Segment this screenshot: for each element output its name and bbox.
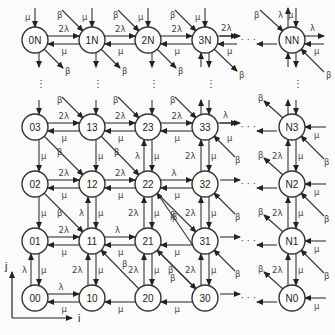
horizontal-ellipsis: · · ·: [241, 292, 257, 303]
node-label: 32: [199, 179, 211, 190]
state-node-22: 22: [135, 171, 161, 197]
mu-label: μ: [314, 187, 320, 197]
node-label: 30: [199, 293, 211, 304]
beta-label: β: [254, 10, 259, 20]
rate-label: 2λ: [128, 265, 138, 275]
node-label: 02: [29, 179, 41, 190]
beta-label: β: [258, 93, 263, 103]
mu-label: μ: [227, 133, 233, 143]
state-node-11: 11: [79, 228, 105, 254]
beta-arrow: [214, 193, 235, 214]
state-node-03: 03: [22, 114, 48, 140]
rate-label: 2λ: [172, 24, 182, 34]
beta-label: β: [122, 259, 127, 269]
vertical-ellipsis: ⋮: [93, 78, 103, 89]
beta-arrow: [214, 250, 235, 271]
beta-label: β: [324, 214, 329, 224]
mu-label: μ: [118, 46, 124, 56]
beta-label: β: [57, 147, 62, 157]
beta-label: β: [324, 157, 329, 167]
state-node-0N: 0N: [22, 27, 48, 53]
rate-label: 2λ: [59, 24, 69, 34]
state-node-13: 13: [79, 114, 105, 140]
rate-label: 2λ: [272, 151, 282, 161]
beta-label: β: [122, 66, 127, 76]
beta-label: β: [324, 271, 329, 281]
mu-label: μ: [25, 12, 31, 22]
rate-label: 2λ: [185, 208, 195, 218]
vertical-ellipsis: ⋮: [293, 78, 303, 89]
rate-label: λ: [172, 168, 177, 178]
mu-label: μ: [288, 10, 294, 20]
beta-arrow: [264, 101, 283, 118]
beta-label: β: [114, 147, 119, 157]
beta-arrow: [301, 193, 324, 216]
mu-label: μ: [211, 208, 217, 218]
rate-label: 2λ: [72, 265, 82, 275]
mu-label: μ: [211, 151, 217, 161]
mu-label: μ: [175, 133, 181, 143]
lambda-label: λ: [278, 10, 283, 20]
rate-label: λ: [22, 265, 27, 275]
node-label: 20: [142, 293, 154, 304]
node-label: 13: [86, 122, 98, 133]
beta-label: β: [172, 212, 177, 222]
rate-label: 2λ: [115, 168, 125, 178]
horizontal-ellipsis: · · ·: [241, 235, 257, 246]
node-label: 21: [142, 236, 154, 247]
state-node-02: 02: [22, 171, 48, 197]
beta-label: β: [57, 10, 62, 20]
node-label: N3: [286, 122, 299, 133]
mu-label: μ: [62, 190, 68, 200]
rate-label: λ: [79, 208, 84, 218]
beta-label: β: [170, 273, 175, 283]
mu-label: μ: [138, 12, 144, 22]
mu-label: μ: [118, 133, 124, 143]
rate-label: 2λ: [59, 168, 69, 178]
state-node-2N: 2N: [135, 27, 161, 53]
mu-label: μ: [195, 12, 201, 22]
beta-arrow: [157, 49, 176, 68]
mu-label: μ: [118, 304, 124, 314]
beta-label: β: [170, 95, 175, 105]
node-label: 22: [142, 179, 154, 190]
rate-label: λ: [59, 282, 64, 292]
state-node-N3: N3: [279, 114, 305, 140]
mu-label: μ: [41, 265, 47, 275]
node-label: 1N: [86, 35, 99, 46]
lambda-label: λ: [223, 110, 228, 120]
beta-arrow: [214, 49, 237, 71]
node-label: N0: [286, 293, 299, 304]
mu-label: μ: [298, 151, 304, 161]
state-node-N0: N0: [279, 285, 305, 311]
state-node-NN: NN: [279, 27, 305, 53]
beta-label: β: [65, 66, 70, 76]
mu-label: μ: [98, 265, 104, 275]
rate-label: 2λ: [115, 24, 125, 34]
node-label: N1: [286, 236, 299, 247]
beta-label: β: [235, 212, 240, 222]
beta-arrow: [264, 272, 283, 289]
beta-label: β: [235, 269, 240, 279]
vertical-ellipsis: ⋮: [36, 78, 46, 89]
rate-label: 2λ: [185, 151, 195, 161]
beta-label: β: [113, 10, 118, 20]
beta-label: β: [239, 70, 244, 80]
vertical-ellipsis: ⋮: [206, 78, 216, 89]
mu-label: μ: [154, 265, 160, 275]
beta-label: β: [258, 207, 263, 217]
beta-label: β: [235, 155, 240, 165]
mu-label: μ: [314, 244, 320, 254]
node-label: 3N: [199, 35, 212, 46]
beta-arrow: [264, 158, 283, 175]
mu-label: μ: [175, 247, 181, 257]
beta-label: β: [326, 70, 331, 80]
state-node-3N: 3N: [192, 27, 218, 53]
mu-label: μ: [175, 304, 181, 314]
beta-arrow: [301, 250, 324, 273]
i-axis-label: i: [78, 312, 80, 324]
mu-label: μ: [314, 46, 320, 56]
node-label: 01: [29, 236, 41, 247]
mu-label: μ: [211, 265, 217, 275]
beta-arrow: [301, 136, 324, 159]
